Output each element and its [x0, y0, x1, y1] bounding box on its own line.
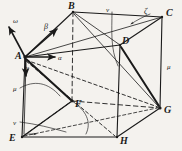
label-mu-right: μ [167, 64, 171, 71]
vertex-label-A: A [15, 51, 22, 61]
ray-D-G [121, 47, 159, 106]
label-nu-top: ν [106, 7, 109, 14]
edge-C-G [160, 17, 162, 108]
vertex-label-C: C [166, 8, 173, 18]
ray-A-G-dashed [26, 60, 158, 107]
ray-E-G-dashed [24, 108, 157, 136]
vector-label-beta: β [44, 23, 48, 31]
edge-H-G [117, 108, 160, 137]
label-mu-left: μ [13, 86, 17, 93]
leader-nu-lower [20, 122, 66, 132]
vertex-dot-F [71, 100, 74, 103]
vertex-dot-B [72, 11, 74, 13]
vertex-label-F: F [75, 99, 82, 109]
vertex-dot-A [23, 55, 26, 58]
vertex-label-D: D [122, 36, 129, 46]
diagonal-B-D [73, 12, 120, 45]
vertex-dot-C [161, 16, 163, 18]
ray-group-from-A [24, 59, 158, 136]
leader-line-group [20, 12, 150, 134]
edge-D-H [117, 45, 120, 137]
vector-label-omega: ω [13, 18, 18, 25]
edge-group-top-face [25, 12, 162, 57]
vertex-dot-D [119, 44, 121, 46]
figure-canvas: A B C D E F G H ω β α γ ν ζ μ μ ν [0, 0, 182, 151]
vertex-dot-E [21, 136, 23, 138]
vertex-dot-H [116, 136, 118, 138]
vector-label-gamma: γ [26, 65, 29, 72]
vertex-label-H: H [120, 136, 128, 146]
vector-label-alpha: α [58, 55, 62, 62]
label-nu-lower: ν [13, 120, 16, 127]
vertex-label-E: E [9, 133, 16, 143]
vertex-label-B: B [68, 1, 75, 11]
vertex-dot-G [158, 106, 161, 109]
vector-beta [25, 29, 57, 57]
leader-nu-top [112, 12, 118, 66]
edge-F-G-dashed [72, 101, 160, 108]
ray-A-F [26, 59, 71, 100]
edge-B-F-dashed [72, 12, 73, 101]
vertex-label-G: G [164, 105, 171, 115]
cube-diagram-svg [0, 0, 182, 151]
label-zeta: ζ [144, 8, 147, 16]
